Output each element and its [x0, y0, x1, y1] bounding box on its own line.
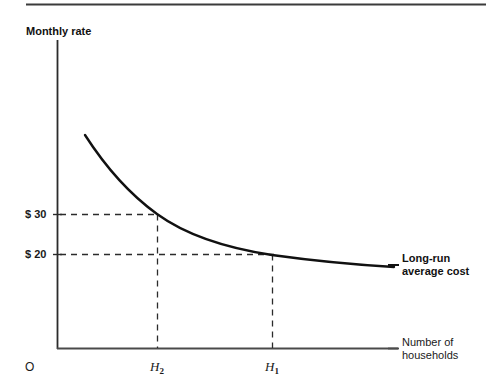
long-run-average-cost-curve — [85, 135, 394, 267]
y-tick-label-30: $ 30 — [25, 208, 46, 220]
x-tick-label-h1: H1 — [264, 359, 279, 376]
x-axis-title-line1: Number of — [402, 336, 454, 348]
x-tick-label-h1-subscript: 1 — [274, 366, 279, 376]
x-tick-label-h1-base: H — [264, 359, 275, 374]
origin-label: O — [25, 360, 34, 374]
svg-text:H1: H1 — [264, 359, 279, 376]
figure-container: Monthly rate $ 30 $ 20 O H2 H1 Long-run … — [0, 0, 486, 391]
x-tick-label-h2-subscript: 2 — [159, 366, 164, 376]
x-tick-label-h2-base: H — [149, 359, 160, 374]
long-run-average-cost-chart: Monthly rate $ 30 $ 20 O H2 H1 Long-run … — [0, 0, 486, 391]
svg-text:H2: H2 — [149, 359, 164, 376]
curve-label-line2: average cost — [402, 265, 470, 277]
x-tick-label-h2: H2 — [149, 359, 164, 376]
y-tick-label-20: $ 20 — [25, 248, 46, 260]
curve-label-line1: Long-run — [402, 252, 451, 264]
x-axis-title-line2: households — [402, 349, 459, 361]
y-axis-title: Monthly rate — [26, 25, 91, 37]
